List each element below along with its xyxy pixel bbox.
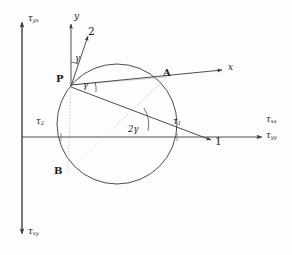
tau-2-label: τ2 — [36, 117, 44, 126]
local-x-axis-label: x — [228, 63, 233, 72]
gamma-pole-label: γ — [83, 81, 88, 90]
tau-1-label: τ1 — [173, 117, 181, 126]
figure-canvas — [0, 0, 292, 255]
principal-direction-1-arrow — [71, 87, 211, 140]
principal-direction-2-label: 2 — [88, 26, 95, 37]
pole-point-label: P — [56, 74, 64, 84]
principal-direction-1-label: 1 — [215, 136, 222, 147]
horizontal-axis-label-yy: τyy — [266, 131, 277, 140]
two-gamma-label: 2γ — [128, 125, 139, 134]
two-gamma-arc-center — [144, 108, 149, 131]
local-y-axis-label: y — [74, 12, 79, 21]
point-b-label: B — [54, 166, 62, 176]
gamma-arc-pole — [95, 82, 96, 92]
vertical-axis-top-label: τyx — [28, 14, 39, 23]
horizontal-axis-label-xx: τxx — [266, 115, 277, 124]
chord-pb-dotted — [68, 85, 71, 172]
gamma-y-axis-label: γ — [75, 54, 80, 63]
vertical-axis-bottom-label: τxy — [28, 227, 39, 236]
mohr-circle-figure: τyx τxy τxx τyy y x P A B 2 1 τ1 τ2 γ γ … — [0, 0, 292, 255]
point-a-label: A — [163, 68, 171, 78]
